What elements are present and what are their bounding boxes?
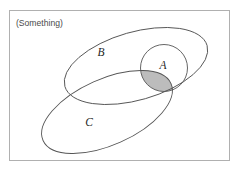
set-label-c: C: [85, 116, 93, 128]
universe-label: (Something): [16, 18, 63, 28]
diagram-canvas: (Something) B A C: [0, 0, 240, 172]
set-label-a: A: [158, 59, 167, 71]
venn-diagram: (Something) B A C: [0, 0, 240, 172]
set-label-b: B: [97, 46, 104, 58]
